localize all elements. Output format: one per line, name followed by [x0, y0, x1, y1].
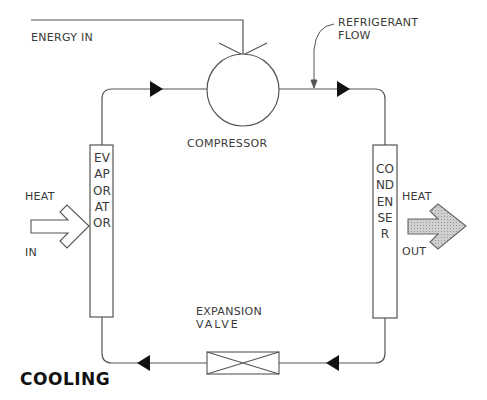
heat-in-label-top: HEAT [25, 191, 55, 203]
condenser-label: CONDENSER [375, 161, 395, 242]
evaporator-label: EVAPORATOR [92, 150, 112, 231]
flow-arrow-icon [326, 355, 339, 371]
diagram-title: COOLING [20, 369, 110, 389]
flow-arrow-icon [150, 81, 163, 97]
expansion-valve-symbol [207, 352, 279, 374]
heat-in-label-bottom: IN [25, 247, 37, 259]
energy-in-label: ENERGY IN [31, 32, 93, 44]
heat-in-arrow-icon [31, 205, 89, 248]
refrigerant-pipe [102, 89, 385, 363]
heat-out-arrow-icon [408, 204, 466, 249]
flow-arrow-icon [137, 355, 150, 371]
refrigerant-flow-callout [311, 24, 334, 88]
expansion-valve-label-line2: VALVE [196, 319, 240, 331]
compressor-label: COMPRESSOR [187, 138, 267, 150]
heat-out-label-top: HEAT [402, 191, 432, 203]
expansion-valve-label-line1: EXPANSION [196, 306, 262, 318]
cut-off-text-line [20, 395, 460, 400]
heat-out-label-bottom: OUT [402, 246, 426, 258]
refrigerant-flow-label-line1: REFRIGERANT [338, 17, 418, 29]
flow-arrow-icon [337, 81, 350, 97]
refrigerant-flow-label-line2: FLOW [338, 30, 371, 42]
compressor-symbol [207, 54, 279, 126]
